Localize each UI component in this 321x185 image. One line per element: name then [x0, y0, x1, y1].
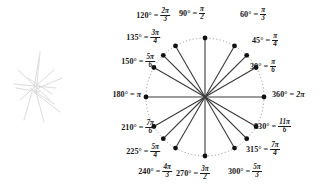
- radian-denominator-120: 3: [163, 16, 167, 24]
- angle-point-225: [161, 136, 166, 141]
- degree-value-240: 240°: [138, 168, 154, 176]
- radian-fraction-240: 4π3: [162, 164, 172, 180]
- radian-denominator-45: 4: [273, 41, 277, 49]
- radian-fraction-90: π2: [199, 6, 205, 22]
- angle-label-45: 45°=π4: [252, 33, 278, 49]
- radian-fraction-45: π4: [272, 33, 278, 49]
- angle-label-180: 180°=π: [112, 91, 141, 99]
- angle-point-270: [203, 154, 208, 159]
- radian-fraction-210: 7π6: [145, 120, 155, 136]
- radian-denominator-30: 6: [271, 67, 275, 75]
- degree-value-225: 225°: [126, 148, 142, 156]
- angle-point-120: [173, 44, 178, 49]
- degree-value-45: 45°: [252, 37, 263, 45]
- degree-value-90: 90°: [179, 10, 190, 18]
- degree-value-315: 315°: [246, 146, 262, 154]
- radian-denominator-240: 3: [165, 172, 169, 180]
- equals-sign: =: [155, 168, 161, 176]
- angle-point-300: [232, 146, 237, 151]
- degree-value-150: 150°: [121, 58, 137, 66]
- radian-fraction-225: 5π4: [150, 144, 160, 160]
- equals-sign: =: [263, 146, 269, 154]
- equals-sign: =: [245, 168, 251, 176]
- equals-sign: =: [138, 124, 144, 132]
- degree-value-360: 360°: [272, 91, 288, 99]
- angle-label-210: 210°=7π6: [121, 120, 155, 136]
- radian-denominator-330: 6: [283, 127, 287, 135]
- equals-sign: =: [153, 12, 159, 20]
- radian-fraction-135: 3π4: [150, 30, 160, 46]
- equals-sign: =: [192, 10, 198, 18]
- radian-denominator-135: 4: [153, 38, 157, 46]
- degree-value-180: 180°: [112, 91, 128, 99]
- radian-fraction-60: π3: [260, 7, 266, 23]
- angle-label-240: 240°=4π3: [138, 164, 172, 180]
- equals-sign: =: [265, 37, 271, 45]
- angle-label-150: 150°=5π6: [121, 54, 155, 70]
- radian-denominator-60: 3: [261, 15, 265, 23]
- equals-sign: =: [253, 11, 259, 19]
- radian-fraction-30: π6: [270, 59, 276, 75]
- radian-denominator-90: 2: [200, 14, 204, 22]
- equals-sign: =: [271, 123, 277, 131]
- degree-value-270: 270°: [176, 170, 192, 178]
- angle-point-60: [232, 44, 237, 49]
- radian-fraction-270: 3π2: [200, 166, 210, 182]
- degree-value-330: 330°: [254, 123, 270, 131]
- unit-circle-figure: 30°=π645°=π460°=π390°=π2120°=2π3135°=3π4…: [0, 0, 321, 185]
- radian-denominator-270: 2: [203, 174, 207, 182]
- angle-point-315: [244, 136, 249, 141]
- angle-label-315: 315°=7π4: [246, 142, 280, 158]
- degree-value-120: 120°: [136, 12, 152, 20]
- angle-point-360: [262, 95, 267, 100]
- angle-point-135: [161, 53, 166, 58]
- angle-label-270: 270°=3π2: [176, 166, 210, 182]
- radian-fraction-300: 5π3: [252, 164, 262, 180]
- angle-label-90: 90°=π2: [179, 6, 205, 22]
- angle-point-45: [244, 53, 249, 58]
- radian-value-360: 2π: [296, 91, 304, 99]
- angle-point-180: [144, 95, 149, 100]
- radian-denominator-300: 3: [255, 172, 259, 180]
- equals-sign: =: [138, 58, 144, 66]
- angle-label-135: 135°=3π4: [126, 30, 160, 46]
- angle-label-330: 330°=11π6: [254, 119, 291, 135]
- radian-denominator-150: 6: [148, 62, 152, 70]
- degree-value-30: 30°: [250, 63, 261, 71]
- angle-label-225: 225°=5π4: [126, 144, 160, 160]
- radian-fraction-150: 5π6: [145, 54, 155, 70]
- angle-label-360: 360°=2π: [272, 91, 305, 99]
- radian-denominator-210: 6: [148, 128, 152, 136]
- equals-sign: =: [143, 148, 149, 156]
- radian-denominator-225: 4: [153, 152, 157, 160]
- equals-sign: =: [129, 91, 135, 99]
- radian-denominator-315: 4: [273, 150, 277, 158]
- angle-label-30: 30°=π6: [250, 59, 276, 75]
- equals-sign: =: [143, 34, 149, 42]
- angle-point-240: [173, 146, 178, 151]
- radian-fraction-315: 7π4: [270, 142, 280, 158]
- equals-sign: =: [289, 91, 295, 99]
- equals-sign: =: [263, 63, 269, 71]
- equals-sign: =: [193, 170, 199, 178]
- angle-label-300: 300°=5π3: [228, 164, 262, 180]
- degree-value-60: 60°: [240, 11, 251, 19]
- angle-label-60: 60°=π3: [240, 7, 266, 23]
- radian-value-180: π: [137, 91, 141, 99]
- degree-value-300: 300°: [228, 168, 244, 176]
- radian-fraction-120: 2π3: [160, 8, 170, 24]
- angle-label-120: 120°=2π3: [136, 8, 170, 24]
- degree-value-135: 135°: [126, 34, 142, 42]
- degree-value-210: 210°: [121, 124, 137, 132]
- radian-fraction-330: 11π6: [278, 119, 291, 135]
- angle-point-90: [203, 36, 208, 41]
